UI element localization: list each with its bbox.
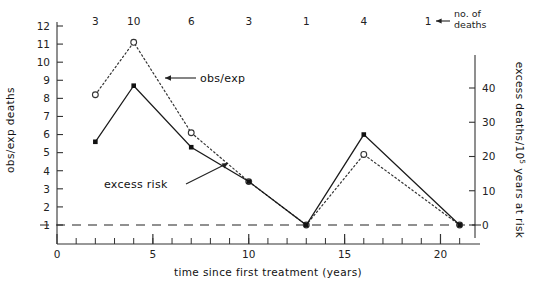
series-excess-risk [93, 83, 462, 227]
y2-tick-label: 20 [482, 150, 495, 162]
x-tick-label: 0 [54, 248, 61, 260]
excess-risk-data-point [131, 83, 136, 88]
excess-risk-data-point [246, 179, 251, 184]
y2-tick-label: 40 [482, 82, 495, 94]
y2-tick-label: 10 [482, 185, 495, 197]
y-tick-label: 3 [43, 183, 50, 195]
excess-risk-data-point [189, 145, 194, 150]
svg-text:excess deaths/105 years at ris: excess deaths/105 years at risk [514, 62, 526, 239]
deaths-legend-label-line1: no. of [454, 8, 482, 19]
deaths-count: 4 [360, 15, 367, 27]
deaths-legend-value: 1 [425, 15, 432, 27]
deaths-count: 3 [92, 15, 99, 27]
x-axis-title: time since first treatment (years) [174, 266, 362, 278]
obs-exp-line [95, 42, 459, 225]
x-tick-label: 10 [242, 248, 255, 260]
excess-risk-data-point [304, 223, 309, 228]
excess-risk-callout-label: excess risk [104, 178, 168, 191]
obs-exp-points [92, 39, 462, 228]
deaths-legend-label-line2: deaths [454, 19, 486, 30]
deaths-count: 10 [127, 15, 140, 27]
deaths-count: 3 [245, 15, 252, 27]
y-tick-label: 11 [37, 38, 50, 50]
y-tick-label: 10 [37, 56, 50, 68]
y-axis-title: obs/exp deaths [4, 87, 16, 173]
y2-title-post: years at risk [514, 164, 526, 238]
y-tick-label: 12 [37, 20, 50, 32]
excess-risk-data-point [93, 139, 98, 144]
y2-title-pre: excess deaths/10 [514, 62, 526, 160]
excess-risk-line [95, 86, 459, 225]
left-axis: 123456789101112 [37, 20, 63, 238]
deaths-count: 6 [188, 15, 195, 27]
obs-exp-data-point [92, 92, 98, 98]
x-tick-label: 20 [434, 248, 447, 260]
obs-exp-data-point [361, 152, 367, 158]
x-axis: 05101520 [54, 234, 480, 260]
excess-risk-callout: excess risk [104, 163, 228, 191]
chart-svg: 123456789101112 010203040 05101520 [0, 0, 537, 294]
deaths-legend: 1 no. of deaths [425, 8, 487, 30]
right-axis: 010203040 [469, 55, 495, 238]
y-tick-label: 2 [43, 201, 50, 213]
chart-figure: 123456789101112 010203040 05101520 [0, 0, 537, 294]
obs-exp-data-point [188, 130, 194, 136]
deaths-count-row: 3106314 [92, 15, 367, 27]
x-tick-label: 5 [150, 248, 157, 260]
deaths-count: 1 [303, 15, 310, 27]
obs-exp-callout: obs/exp [165, 72, 245, 85]
y-tick-label: 6 [43, 128, 50, 140]
y2-tick-label: 30 [482, 116, 495, 128]
x-tick-label: 15 [338, 248, 351, 260]
excess-risk-points [93, 83, 462, 227]
excess-risk-data-point [361, 132, 366, 137]
y2-axis-title: excess deaths/105 years at risk [514, 62, 526, 239]
y-tick-label: 7 [43, 110, 50, 122]
y-tick-label: 9 [43, 74, 50, 86]
x-axis-tick-labels: 05101520 [54, 248, 448, 260]
y-tick-label: 4 [43, 165, 50, 177]
right-axis-tick-labels: 010203040 [482, 82, 495, 231]
y-tick-label: 8 [43, 92, 50, 104]
obs-exp-data-point [131, 39, 137, 45]
excess-risk-data-point [457, 223, 462, 228]
x-axis-minor-ticks [57, 238, 460, 244]
left-axis-ticks [57, 26, 63, 225]
left-axis-tick-labels: 123456789101112 [37, 20, 51, 231]
right-axis-ticks [469, 88, 475, 225]
series-obs-exp [92, 39, 462, 228]
y2-tick-label: 0 [482, 219, 489, 231]
y-tick-label: 5 [43, 146, 50, 158]
obs-exp-callout-label: obs/exp [200, 72, 245, 85]
